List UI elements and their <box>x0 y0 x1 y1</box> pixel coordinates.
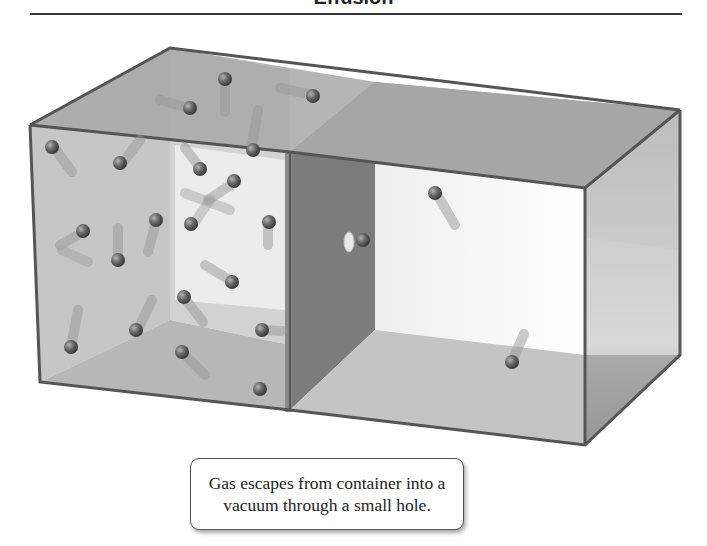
particle <box>111 228 125 267</box>
particle <box>218 72 232 112</box>
caption-box: Gas escapes from container into a vacuum… <box>190 458 464 530</box>
caption-line-2: vacuum through a small hole. <box>209 494 446 516</box>
caption-line-1: Gas escapes from container into a <box>209 472 446 494</box>
particle <box>253 382 267 396</box>
